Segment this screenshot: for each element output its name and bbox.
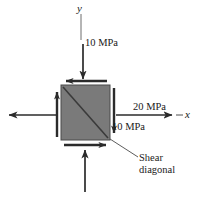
shear-diagonal-callout-line1: Shear — [139, 152, 175, 164]
shear-diagonal-callout: Shear diagonal — [139, 152, 175, 176]
shear-stress-label: 10 MPa — [112, 121, 145, 133]
right-stress-label: 20 MPa — [133, 101, 166, 113]
callout-leader-line-icon — [110, 139, 138, 157]
x-axis-label: x — [185, 108, 190, 120]
shear-diagonal-callout-line2: diagonal — [139, 164, 175, 176]
top-stress-label: 10 MPa — [85, 37, 118, 49]
y-axis-label: y — [77, 2, 82, 14]
stress-element-figure: y x 10 MPa 20 MPa 10 MPa Shear diagonal — [0, 0, 200, 200]
